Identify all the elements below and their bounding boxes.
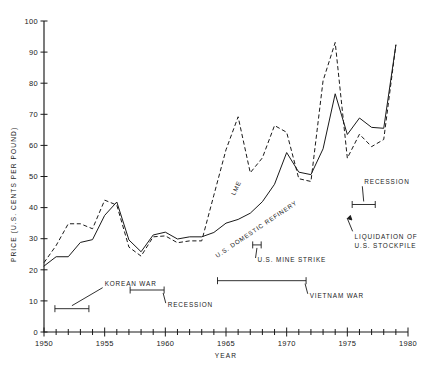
y-tick-label: 0 [34, 328, 38, 337]
y-tick-label: 10 [29, 297, 38, 306]
y-tick-label: 70 [29, 110, 38, 119]
x-tick-label: 1955 [96, 339, 114, 348]
annotation-label-line1: LIQUIDATION OF [355, 233, 418, 241]
x-tick-label: 1960 [156, 339, 174, 348]
copper-price-chart: 0102030405060708090100 19501955196019651… [0, 0, 438, 373]
chart-canvas: 0102030405060708090100 19501955196019651… [0, 0, 438, 373]
y-tick-label: 20 [29, 266, 38, 275]
x-tick-label: 1975 [338, 339, 356, 348]
y-axis-title: PRICE (U.S. CENTS PER POUND) [10, 127, 18, 262]
x-tick-label: 1950 [35, 339, 53, 348]
annotation-label: RECESSION [364, 178, 409, 185]
annotation-label-line2: U.S. STOCKPILE [355, 242, 417, 249]
annotation-label: VIETNAM WAR [310, 292, 364, 299]
y-tick-label: 90 [29, 48, 38, 57]
x-axis-title: YEAR [215, 352, 237, 359]
y-tick-label: 50 [29, 172, 38, 181]
annotation-label: RECESSION [168, 301, 213, 308]
x-tick-label: 1970 [278, 339, 296, 348]
y-tick-label: 100 [25, 17, 38, 26]
annotation-label: KOREAN WAR [105, 280, 157, 287]
annotation-label: U.S. MINE STRIKE [258, 256, 327, 263]
y-tick-label: 30 [29, 234, 38, 243]
y-tick-label: 40 [29, 203, 38, 212]
x-tick-label: 1980 [399, 339, 417, 348]
y-tick-label: 80 [29, 79, 38, 88]
chart-background [0, 0, 438, 373]
y-tick-label: 60 [29, 141, 38, 150]
x-tick-label: 1965 [217, 339, 235, 348]
